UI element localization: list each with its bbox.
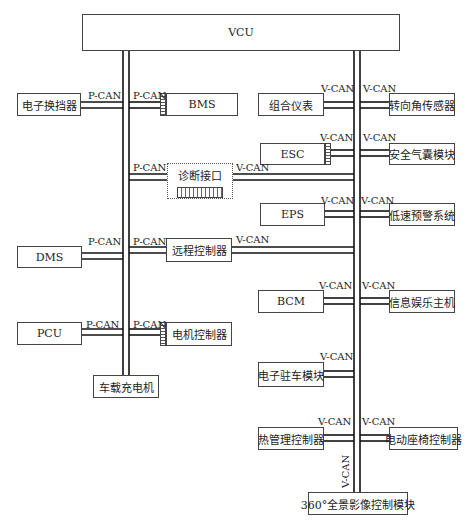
- node-remote-controller: 远程控制器: [166, 238, 232, 262]
- node-eps: EPS: [260, 203, 325, 226]
- node-esc: ESC: [260, 143, 325, 165]
- node-motor-controller: 电机控制器: [166, 322, 232, 346]
- node-label: DMS: [36, 251, 64, 264]
- node-label: 360°全景影像控制模块: [301, 496, 416, 512]
- node-label: VCU: [228, 26, 254, 39]
- node-pcu: PCU: [17, 322, 82, 345]
- node-label: 诊断接口: [178, 167, 222, 183]
- obd-connector-icon: [177, 187, 223, 198]
- node-electronic-parking: 电子驻车模块: [258, 362, 324, 387]
- node-label: BMS: [189, 98, 216, 111]
- bus-label-vcan: V-CAN: [318, 417, 351, 427]
- bus-label-vcan: V-CAN: [341, 455, 351, 488]
- node-vcu: VCU: [82, 14, 400, 51]
- bus-label-vcan: V-CAN: [321, 84, 354, 94]
- node-label: 电动座椅控制器: [385, 431, 462, 447]
- bus-label-pcan: P-CAN: [88, 237, 121, 247]
- node-infotainment-head-unit: 信息娱乐主机: [389, 290, 455, 313]
- node-label: EPS: [281, 208, 304, 221]
- node-label: 电子驻车模块: [258, 367, 324, 383]
- bus-label-pcan: P-CAN: [133, 237, 166, 247]
- bus-label-vcan: V-CAN: [321, 196, 354, 206]
- node-diagnostic-port: 诊断接口: [167, 163, 233, 199]
- node-airbag-module: 安全气囊模块: [389, 143, 455, 165]
- bus-label-vcan: V-CAN: [363, 133, 396, 143]
- node-instrument-cluster: 组合仪表: [258, 93, 324, 116]
- node-label: 信息娱乐主机: [389, 294, 455, 310]
- node-label: 电机控制器: [172, 326, 227, 342]
- termination-resistor-icon: [325, 143, 331, 165]
- bus-label-vcan: V-CAN: [362, 417, 395, 427]
- node-label: PCU: [37, 327, 62, 340]
- bus-label-vcan: V-CAN: [236, 235, 269, 245]
- node-360-surround-view: 360°全景影像控制模块: [308, 492, 408, 515]
- node-bcm: BCM: [258, 290, 324, 313]
- bus-label-pcan: P-CAN: [86, 320, 119, 330]
- node-label: BCM: [277, 295, 305, 308]
- node-label: 低速预警系统: [389, 207, 455, 223]
- bus-label-pcan: P-CAN: [88, 91, 121, 101]
- bus-label-vcan: V-CAN: [320, 352, 353, 362]
- can-topology-diagram: VCU 电子换挡器 BMS 诊断接口 DMS 远程控制器 PCU 电机控制器 车…: [0, 0, 473, 527]
- bus-label-pcan: P-CAN: [133, 91, 166, 101]
- node-label: 远程控制器: [172, 242, 227, 258]
- node-power-seat-controller: 电动座椅控制器: [389, 427, 458, 450]
- bus-label-vcan: V-CAN: [319, 281, 352, 291]
- node-label: 组合仪表: [269, 97, 313, 113]
- node-label: 热管理控制器: [258, 431, 324, 447]
- node-electronic-shifter: 电子换挡器: [17, 93, 81, 116]
- node-dms: DMS: [17, 246, 82, 268]
- node-label: 安全气囊模块: [389, 146, 455, 162]
- bus-label-vcan: V-CAN: [361, 196, 394, 206]
- node-thermal-management: 热管理控制器: [258, 427, 324, 450]
- node-bms: BMS: [166, 93, 238, 116]
- node-steering-angle-sensor: 转向角传感器: [389, 93, 455, 116]
- node-onboard-charger: 车载充电机: [93, 375, 159, 398]
- bus-label-pcan: P-CAN: [133, 163, 166, 173]
- node-label: 电子换挡器: [22, 97, 77, 113]
- node-label: ESC: [281, 148, 305, 161]
- node-label: 车载充电机: [99, 379, 154, 395]
- bus-label-vcan: V-CAN: [363, 84, 396, 94]
- node-low-speed-warning: 低速预警系统: [389, 203, 455, 226]
- bus-label-vcan: V-CAN: [362, 281, 395, 291]
- bus-label-vcan: V-CAN: [320, 133, 353, 143]
- bus-label-vcan: V-CAN: [236, 163, 269, 173]
- node-label: 转向角传感器: [389, 97, 455, 113]
- bus-label-pcan: P-CAN: [133, 320, 166, 330]
